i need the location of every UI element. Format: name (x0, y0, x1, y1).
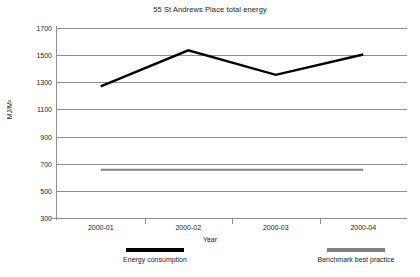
x-axis-title: Year (0, 236, 420, 243)
legend-entry[interactable]: Benchmark best practice (291, 246, 420, 264)
legend-entry[interactable]: Energy consumption (90, 246, 220, 264)
x-axis-tick-mark (232, 219, 233, 224)
x-axis-tick-mark (145, 219, 146, 224)
y-axis-tick-mark (65, 28, 70, 29)
x-axis-tick-labels: 2000-012000-022000-032000-04 (57, 224, 407, 236)
y-axis-tick-label: 1700 (18, 25, 52, 32)
y-axis-line (56, 26, 57, 220)
x-axis-tick-label: 2000-04 (319, 224, 407, 232)
y-axis-tick-mark (65, 109, 70, 110)
legend-swatch (126, 248, 184, 252)
y-axis-tick-label: 500 (18, 188, 52, 195)
chart-legend: Energy consumptionBenchmark best practic… (0, 246, 420, 272)
y-axis-tick-mark (65, 191, 70, 192)
y-axis-tick-mark (65, 55, 70, 56)
chart-container: 55 St Andrews Place total energy MJ/M² 1… (0, 0, 420, 277)
gridline (57, 164, 407, 165)
chart-title: 55 St Andrews Place total energy (0, 5, 420, 14)
y-axis-tick-label: 300 (18, 215, 52, 222)
gridline (57, 55, 407, 56)
legend-swatch (327, 248, 385, 252)
x-axis-line (50, 218, 407, 219)
x-axis-tick-label: 2000-01 (57, 224, 145, 232)
y-axis-tick-mark (65, 164, 70, 165)
x-axis-tick-label: 2000-03 (232, 224, 320, 232)
gridline (57, 137, 407, 138)
gridline (57, 82, 407, 83)
y-axis-tick-label: 1500 (18, 52, 52, 59)
y-axis-tick-label: 700 (18, 161, 52, 168)
gridline (57, 28, 407, 29)
y-axis-tick-mark (65, 82, 70, 83)
y-axis-tick-label: 1300 (18, 79, 52, 86)
y-axis-tick-label: 900 (18, 134, 52, 141)
gridline (57, 191, 407, 192)
gridline (57, 109, 407, 110)
y-axis-tick-mark (65, 137, 70, 138)
y-axis-title: MJ/M² (6, 87, 13, 133)
x-axis-tick-mark (320, 219, 321, 224)
plot-area (57, 28, 407, 218)
legend-label: Benchmark best practice (291, 256, 420, 264)
legend-label: Energy consumption (90, 256, 220, 264)
y-axis-tick-label: 1100 (18, 106, 52, 113)
x-axis-tick-label: 2000-02 (144, 224, 232, 232)
y-axis-tick-labels: 1700150013001100900700500300 (14, 28, 52, 218)
